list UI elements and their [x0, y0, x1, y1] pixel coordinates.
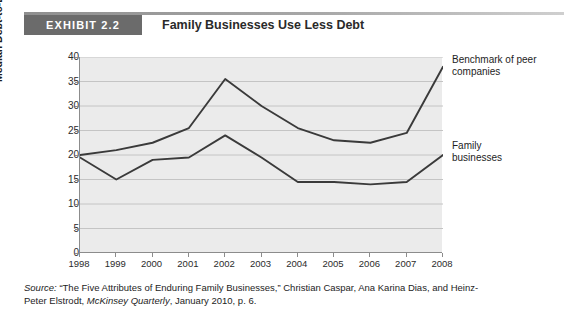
- series-label-benchmark: Benchmark of peer companies: [452, 54, 537, 78]
- x-tick-mark: [261, 253, 262, 257]
- source-publication: McKinsey Quarterly: [87, 295, 170, 306]
- plot-area: [79, 57, 442, 253]
- x-tick-label: 2004: [286, 258, 307, 269]
- x-tick-mark: [79, 253, 80, 257]
- plot-svg: [80, 57, 443, 253]
- x-tick-label: 2002: [214, 258, 235, 269]
- x-tick-label: 1999: [105, 258, 126, 269]
- x-tick-mark: [406, 253, 407, 257]
- series-label-family: Family businesses: [452, 140, 502, 164]
- x-tick-mark: [224, 253, 225, 257]
- exhibit-tag-label: EXHIBIT 2.2: [24, 15, 142, 35]
- series-line-family: [80, 135, 443, 184]
- x-tick-mark: [369, 253, 370, 257]
- source-text-2: , January 2010, p. 6.: [170, 295, 257, 306]
- exhibit-title: Family Businesses Use Less Debt: [162, 15, 364, 35]
- y-axis-title: Median Debt-to-Equity Ratio, %: [0, 0, 4, 82]
- x-tick-label: 2006: [359, 258, 380, 269]
- source-label: Source:: [24, 282, 57, 293]
- x-tick-mark: [333, 253, 334, 257]
- x-axis-ticks: 1998199920002001200220032004200520062007…: [79, 253, 442, 277]
- x-tick-label: 2007: [395, 258, 416, 269]
- chart-container: Median Debt-to-Equity Ratio, % 051015202…: [0, 44, 583, 274]
- series-line-benchmark: [80, 67, 443, 155]
- exhibit-header: EXHIBIT 2.2 Family Businesses Use Less D…: [24, 12, 564, 36]
- x-tick-mark: [297, 253, 298, 257]
- x-tick-label: 2005: [323, 258, 344, 269]
- x-tick-mark: [115, 253, 116, 257]
- x-tick-label: 2008: [431, 258, 452, 269]
- source-note: Source: “The Five Attributes of Enduring…: [24, 282, 494, 307]
- x-tick-label: 2000: [141, 258, 162, 269]
- x-tick-label: 2001: [177, 258, 198, 269]
- x-tick-mark: [442, 253, 443, 257]
- x-tick-mark: [152, 253, 153, 257]
- x-tick-label: 1998: [68, 258, 89, 269]
- x-tick-label: 2003: [250, 258, 271, 269]
- y-axis-ticks: 0510152025303540: [46, 57, 79, 257]
- x-tick-mark: [188, 253, 189, 257]
